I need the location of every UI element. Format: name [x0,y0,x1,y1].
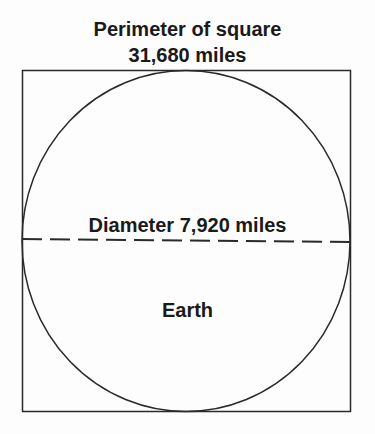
diameter-label: Diameter 7,920 miles [0,214,375,237]
square [23,71,351,412]
earth-label: Earth [0,299,375,322]
diameter-line [22,239,350,242]
earth-circle [22,71,350,412]
earth-square-diagram: Perimeter of square 31,680 miles Diamete… [0,0,375,434]
